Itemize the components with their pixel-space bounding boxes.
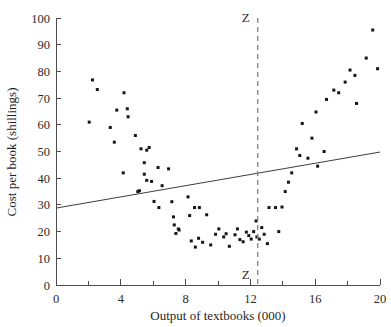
data-point bbox=[371, 29, 374, 32]
data-point bbox=[188, 214, 191, 217]
x-axis-title: Output of textbooks (000) bbox=[150, 308, 285, 323]
data-point bbox=[298, 154, 301, 157]
y-tick-label: 90 bbox=[38, 38, 51, 52]
data-point bbox=[250, 238, 253, 241]
data-point bbox=[222, 235, 225, 238]
x-tick-label: 20 bbox=[374, 292, 387, 306]
data-point bbox=[245, 231, 248, 234]
data-point bbox=[310, 137, 313, 140]
x-tick-label: 4 bbox=[118, 292, 125, 306]
trend-line bbox=[56, 152, 380, 208]
x-axis-tick-labels: 048121620 bbox=[53, 292, 386, 306]
data-point bbox=[172, 215, 175, 218]
data-point bbox=[174, 232, 177, 235]
data-point bbox=[353, 74, 356, 77]
data-point bbox=[173, 223, 176, 226]
data-point bbox=[201, 241, 204, 244]
y-tick-label: 100 bbox=[31, 12, 50, 26]
data-point bbox=[187, 195, 190, 198]
data-point bbox=[376, 67, 379, 70]
data-point bbox=[316, 165, 319, 168]
x-tick-label: 8 bbox=[182, 292, 188, 306]
data-point bbox=[145, 179, 148, 182]
y-tick-label: 70 bbox=[38, 92, 51, 106]
data-point bbox=[274, 206, 277, 209]
data-point bbox=[153, 200, 156, 203]
y-tick-label: 60 bbox=[38, 118, 51, 132]
data-point bbox=[277, 230, 280, 233]
y-tick-label: 40 bbox=[38, 172, 51, 186]
data-point bbox=[287, 181, 290, 184]
data-point bbox=[193, 206, 196, 209]
data-point bbox=[306, 157, 309, 160]
x-tick-label: 12 bbox=[244, 292, 257, 306]
data-point bbox=[113, 141, 116, 144]
y-tick-label: 0 bbox=[44, 279, 50, 293]
x-axis-ticks bbox=[56, 279, 380, 285]
data-point bbox=[225, 232, 228, 235]
data-point bbox=[323, 150, 326, 153]
data-point bbox=[143, 161, 146, 164]
data-point bbox=[284, 190, 287, 193]
data-point bbox=[332, 89, 335, 92]
data-point bbox=[337, 91, 340, 94]
data-point bbox=[205, 213, 208, 216]
data-point bbox=[209, 243, 212, 246]
data-point bbox=[145, 149, 148, 152]
y-axis-ticks bbox=[56, 18, 61, 285]
x-tick-label: 16 bbox=[309, 292, 322, 306]
data-point bbox=[349, 69, 352, 72]
data-point bbox=[266, 242, 269, 245]
data-point bbox=[263, 233, 266, 236]
data-point bbox=[234, 233, 237, 236]
data-point bbox=[115, 109, 118, 112]
data-point bbox=[290, 171, 293, 174]
data-point bbox=[143, 173, 146, 176]
data-point bbox=[134, 134, 137, 137]
data-point bbox=[190, 239, 193, 242]
data-point bbox=[138, 189, 141, 192]
data-point bbox=[295, 147, 298, 150]
data-point bbox=[198, 206, 201, 209]
data-point bbox=[238, 238, 241, 241]
data-point bbox=[280, 206, 283, 209]
data-point bbox=[315, 110, 318, 113]
data-point bbox=[301, 122, 304, 125]
data-point bbox=[150, 180, 153, 183]
data-point bbox=[122, 171, 125, 174]
data-point bbox=[365, 57, 368, 60]
data-point bbox=[157, 206, 160, 209]
data-point bbox=[127, 115, 130, 118]
data-point bbox=[148, 146, 151, 149]
data-point bbox=[194, 246, 197, 249]
data-point bbox=[242, 240, 245, 243]
data-point bbox=[96, 88, 99, 91]
y-axis-tick-labels: 0102030405060708090100 bbox=[31, 12, 50, 293]
reference-label-bottom: Z bbox=[242, 267, 250, 282]
y-tick-label: 20 bbox=[38, 225, 51, 239]
x-tick-label: 0 bbox=[53, 292, 59, 306]
data-point bbox=[126, 107, 129, 110]
data-point bbox=[178, 229, 181, 232]
data-point bbox=[167, 167, 170, 170]
data-point bbox=[170, 200, 173, 203]
data-point bbox=[217, 227, 220, 230]
data-point bbox=[109, 126, 112, 129]
data-point bbox=[214, 233, 217, 236]
data-point bbox=[236, 227, 239, 230]
data-point bbox=[260, 226, 263, 229]
data-points bbox=[88, 29, 379, 249]
data-point bbox=[344, 81, 347, 84]
data-point bbox=[228, 245, 231, 248]
scatter-chart: 048121620 0102030405060708090100 Z Z Out… bbox=[0, 0, 391, 327]
data-point bbox=[91, 78, 94, 81]
data-point bbox=[140, 147, 143, 150]
data-point bbox=[325, 98, 328, 101]
data-point bbox=[88, 121, 91, 124]
y-tick-label: 80 bbox=[38, 65, 51, 79]
data-point bbox=[197, 237, 200, 240]
data-point bbox=[157, 166, 160, 169]
y-tick-label: 10 bbox=[38, 252, 51, 266]
y-axis-title: Cost per book (shillings) bbox=[4, 88, 19, 217]
y-tick-label: 30 bbox=[38, 198, 51, 212]
